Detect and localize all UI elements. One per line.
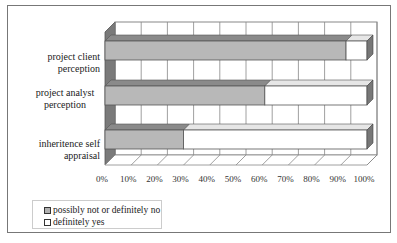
legend-swatch-gray [44,207,51,214]
legend-item-no: possibly not or definitely no [44,205,160,216]
category-label-self: inheritence self appraisal [4,138,100,162]
category-label-analyst-line2: perception [30,99,100,111]
category-label-analyst: project analyst perception [30,87,100,111]
category-label-client: project client perception [6,51,100,75]
legend-item-yes: definitely yes [44,217,104,228]
legend-label-yes: definitely yes [53,217,104,228]
legend-swatch-white [44,219,51,226]
legend-label-no: possibly not or definitely no [53,205,160,216]
x-tick-label: 100% [349,174,379,184]
legend: possibly not or definitely no definitely… [32,200,162,229]
category-label-analyst-line1: project analyst [30,87,100,99]
